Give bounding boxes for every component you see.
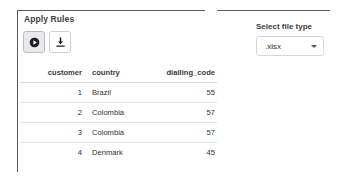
table-header-row: customer country dialling_code <box>20 62 217 83</box>
select-file-type-label: Select file type <box>256 22 312 31</box>
table-row: 2 Colombia 57 <box>20 103 217 123</box>
download-icon <box>55 37 66 48</box>
column-header-dialling-code: dialling_code <box>150 62 217 83</box>
cell-dialling-code: 55 <box>150 83 217 103</box>
apply-rules-title: Apply Rules <box>24 14 74 24</box>
cell-country: Brazil <box>90 83 150 103</box>
rules-result-table: customer country dialling_code 1 Brazil … <box>20 62 205 162</box>
cell-dialling-code: 57 <box>150 123 217 143</box>
chevron-down-icon <box>311 45 317 48</box>
cell-country: Denmark <box>90 143 150 163</box>
cell-customer: 3 <box>20 123 90 143</box>
column-header-country: country <box>90 62 150 83</box>
cell-dialling-code: 57 <box>150 103 217 123</box>
file-type-selected-value: .xlsx <box>265 42 281 51</box>
play-circle-icon <box>29 37 40 48</box>
download-button[interactable] <box>49 31 71 53</box>
cell-customer: 2 <box>20 103 90 123</box>
cell-country: Colombia <box>90 123 150 143</box>
run-button[interactable] <box>23 31 45 53</box>
cell-customer: 1 <box>20 83 90 103</box>
action-button-group <box>23 31 71 53</box>
cell-country: Colombia <box>90 103 150 123</box>
column-header-customer: customer <box>20 62 90 83</box>
table-row: 4 Denmark 45 <box>20 143 217 163</box>
file-type-select[interactable]: .xlsx <box>256 36 324 56</box>
cell-customer: 4 <box>20 143 90 163</box>
app-root: Apply Rules custome <box>0 0 342 179</box>
table-row: 1 Brazil 55 <box>20 83 217 103</box>
table-row: 3 Colombia 57 <box>20 123 217 143</box>
cell-dialling-code: 45 <box>150 143 217 163</box>
